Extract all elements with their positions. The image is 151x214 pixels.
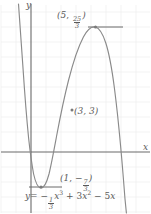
max-y-fraction: 253	[72, 16, 82, 30]
equation-label: y= −13x3 + 3x2 − 5x	[25, 192, 115, 211]
equals-sign: =	[30, 191, 38, 201]
point-minimum	[40, 186, 43, 189]
fraction-denominator: 3	[74, 22, 80, 29]
y-axis-label: y	[26, 1, 31, 10]
fraction-denominator: 3	[48, 203, 54, 210]
term3-sign: −	[94, 191, 102, 201]
paren-close: )	[89, 173, 93, 183]
term2-exponent: 2	[87, 189, 91, 196]
term1-exponent: 3	[59, 189, 63, 196]
term1-sign: −	[41, 191, 49, 201]
paren-close: )	[82, 10, 86, 20]
label-inflection-point: (3, 3)	[74, 107, 98, 116]
minus-sign: −	[75, 173, 83, 183]
point-maximum	[94, 26, 97, 29]
x-axis-label: x	[143, 143, 148, 152]
term3-variable: x	[110, 191, 115, 201]
label-local-maximum: (5, 253)	[57, 11, 86, 30]
term2-sign: +	[66, 191, 74, 201]
